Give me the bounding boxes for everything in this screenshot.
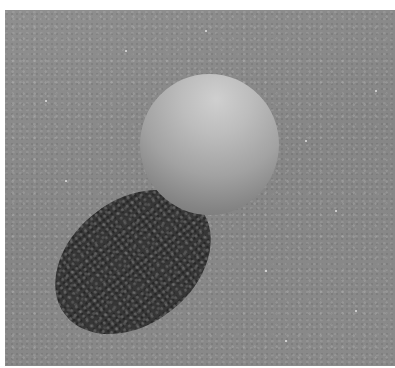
surface-speck [125,50,127,52]
surface-speck [205,30,207,32]
surface-speck [355,310,357,312]
surface-speck [65,180,67,182]
surface-speck [305,140,307,142]
surface-speck [375,90,377,92]
surface-speck [335,210,337,212]
sphere [140,74,279,215]
surface-speck [45,100,47,102]
surface-speck [285,340,287,342]
image-frame [5,10,395,366]
surface-speck [265,270,267,272]
